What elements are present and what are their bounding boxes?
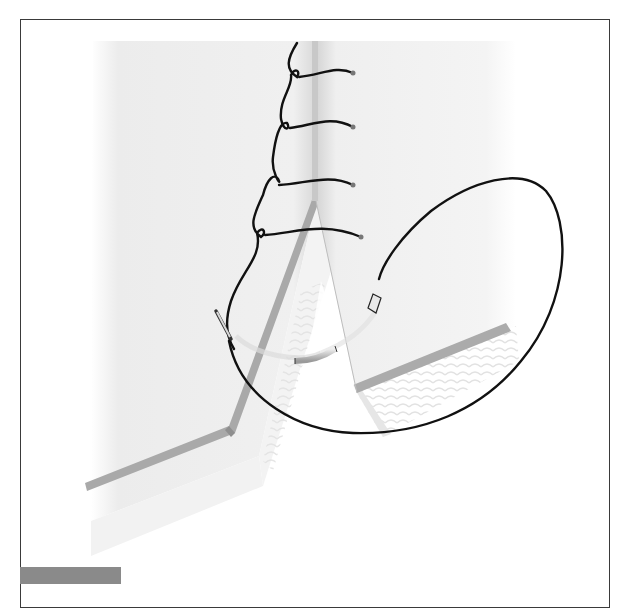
- suture-illustration: [20, 19, 610, 585]
- figure-label-bar: [20, 567, 121, 584]
- figure-frame: [20, 19, 610, 608]
